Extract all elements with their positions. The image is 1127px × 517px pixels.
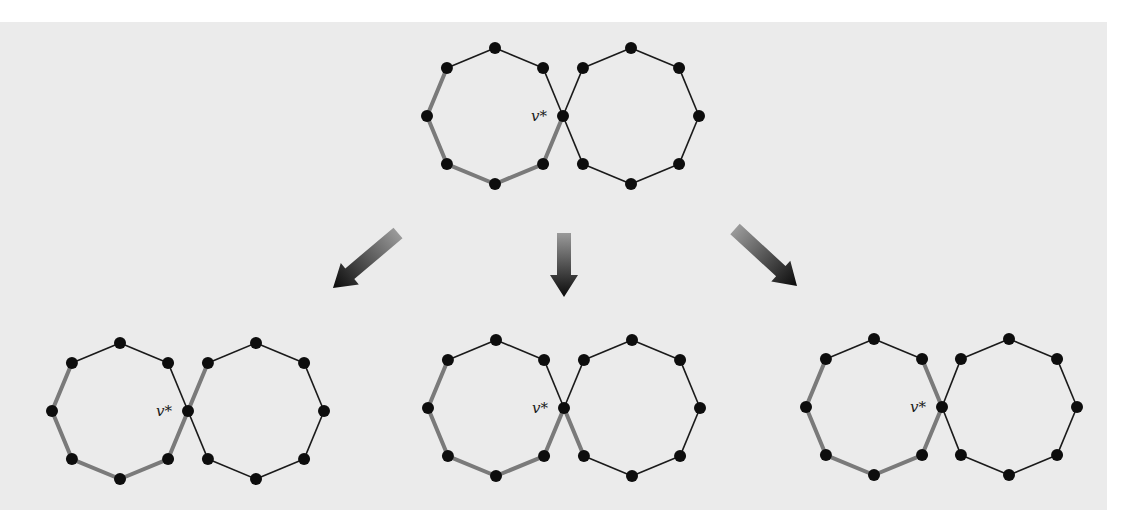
edge [1057, 407, 1077, 455]
edge [208, 459, 256, 479]
edge [632, 340, 680, 360]
vertex-node [820, 449, 832, 461]
edge [583, 48, 631, 68]
vertex-node [538, 450, 550, 462]
vertex-node [422, 402, 434, 414]
vertex-node [162, 453, 174, 465]
edge [256, 459, 304, 479]
vertex-node [800, 401, 812, 413]
edge [583, 164, 631, 184]
vertex-node [114, 473, 126, 485]
highlighted-path-edge [427, 116, 447, 164]
vertex-label-v-star: v* [156, 402, 172, 420]
vertex-node [250, 337, 262, 349]
vertex-node [577, 158, 589, 170]
vertex-node [537, 158, 549, 170]
edge [632, 456, 680, 476]
edge [447, 48, 495, 68]
edge [448, 340, 496, 360]
vertex-node [1003, 333, 1015, 345]
vertex-node [693, 110, 705, 122]
vertex-node [537, 62, 549, 74]
edge [496, 340, 544, 360]
edge [564, 360, 584, 408]
edge [961, 455, 1009, 475]
highlighted-path-edge [428, 360, 448, 408]
vertex-node [674, 450, 686, 462]
arrow-middle-icon [550, 233, 578, 297]
highlighted-path-edge [874, 455, 922, 475]
cut-vertex-node [557, 110, 569, 122]
graph-diagram: v*v*v*v* [0, 0, 1127, 517]
edge [256, 343, 304, 363]
vertex-node [868, 333, 880, 345]
edge [679, 68, 699, 116]
highlighted-path-edge [826, 455, 874, 475]
edge [563, 68, 583, 116]
vertex-node [441, 158, 453, 170]
edge [961, 339, 1009, 359]
edge [72, 343, 120, 363]
vertex-node [1051, 449, 1063, 461]
edge [1009, 339, 1057, 359]
edge [680, 360, 700, 408]
vertex-label-v-star: v* [910, 398, 926, 416]
vertex-label-v-star: v* [531, 107, 547, 125]
vertex-node [202, 357, 214, 369]
graph-bottom-middle: v* [422, 334, 706, 482]
graph-bottom-left: v* [46, 337, 330, 485]
highlighted-path-edge [52, 363, 72, 411]
vertex-node [916, 449, 928, 461]
edge [304, 411, 324, 459]
highlighted-path-edge [188, 363, 208, 411]
vertex-node [489, 42, 501, 54]
vertex-node [66, 357, 78, 369]
highlighted-path-edge [495, 164, 543, 184]
highlighted-path-edge [428, 408, 448, 456]
arrow-right-icon [730, 224, 797, 286]
vertex-node [250, 473, 262, 485]
highlighted-path-edge [52, 411, 72, 459]
edge [679, 116, 699, 164]
vertex-node [298, 357, 310, 369]
vertex-node [955, 449, 967, 461]
vertex-node [577, 62, 589, 74]
vertex-node [162, 357, 174, 369]
vertex-node [674, 354, 686, 366]
highlighted-path-edge [806, 359, 826, 407]
graph-top: v* [421, 42, 705, 190]
vertex-node [578, 450, 590, 462]
vertex-node [694, 402, 706, 414]
vertex-node [578, 354, 590, 366]
vertex-node [1071, 401, 1083, 413]
edge [631, 164, 679, 184]
vertex-node [625, 42, 637, 54]
vertex-node [1003, 469, 1015, 481]
edge [584, 340, 632, 360]
vertex-node [202, 453, 214, 465]
highlighted-path-edge [427, 68, 447, 116]
vertex-node [673, 62, 685, 74]
vertex-node [1051, 353, 1063, 365]
vertex-node [442, 354, 454, 366]
edge [304, 363, 324, 411]
cut-vertex-node [182, 405, 194, 417]
edge [188, 411, 208, 459]
edge [874, 339, 922, 359]
edge [942, 407, 961, 455]
vertex-node [298, 453, 310, 465]
vertex-node [442, 450, 454, 462]
edge [942, 359, 961, 407]
vertex-node [489, 178, 501, 190]
graph-bottom-right: v* [800, 333, 1083, 481]
vertex-node [421, 110, 433, 122]
vertex-node [626, 334, 638, 346]
vertex-node [66, 453, 78, 465]
vertex-node [916, 353, 928, 365]
edge [680, 408, 700, 456]
edge [584, 456, 632, 476]
vertex-node [538, 354, 550, 366]
vertex-node [441, 62, 453, 74]
highlighted-path-edge [447, 164, 495, 184]
highlighted-path-edge [120, 459, 168, 479]
